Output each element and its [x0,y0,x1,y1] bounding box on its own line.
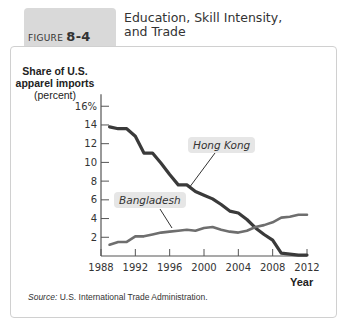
source-text: U.S. International Trade Administration. [57,292,207,302]
hong-kong-callout: Hong Kong [188,137,255,153]
x-tick-label: 2012 [294,262,319,273]
x-tick-label: 1988 [88,262,113,273]
y-tick-label: 4 [91,213,97,224]
x-tick-label: 2000 [191,262,216,273]
y-tick-label: 6 [91,194,97,205]
y-tick-label: 8 [91,176,97,187]
x-tick-label: 1992 [123,262,148,273]
source-prefix: Source: [28,292,57,302]
source-note: Source: U.S. International Trade Adminis… [28,292,208,302]
x-axis-title: Year [290,276,313,288]
x-tick-label: 1996 [157,262,182,273]
bangladesh-callout: Bangladesh [114,192,186,208]
bangladesh-leader-line [160,209,172,228]
y-tick-label: 12 [84,138,97,149]
y-tick-label: 16% [75,101,97,112]
hong-kong-leader-line [189,153,215,188]
y-tick-label: 10 [84,157,97,168]
y-tick-label: 14 [84,119,97,130]
x-tick-label: 2008 [260,262,285,273]
bangladesh-line [110,215,307,245]
y-tick-label: 2 [91,232,97,243]
x-tick-label: 2004 [226,262,251,273]
